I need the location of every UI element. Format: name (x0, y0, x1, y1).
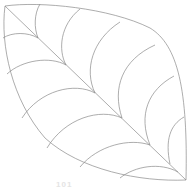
leaf-midrib (5, 6, 186, 180)
vein (3, 34, 38, 39)
leaf-illustration (0, 0, 191, 188)
vein (118, 45, 155, 118)
vein (47, 114, 122, 148)
vein (168, 117, 184, 164)
vein (120, 166, 178, 178)
vein (7, 60, 66, 74)
vein (62, 9, 80, 65)
vein (35, 4, 40, 38)
vein (22, 88, 95, 118)
watermark-text: 101 (56, 180, 72, 188)
vein (90, 22, 120, 93)
vein (80, 142, 150, 167)
